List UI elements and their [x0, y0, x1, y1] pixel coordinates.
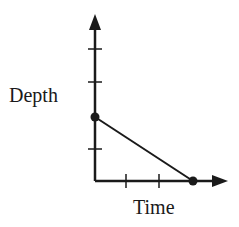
depth-time-chart [0, 0, 239, 227]
data-line [95, 117, 193, 181]
data-point-end [189, 177, 198, 186]
x-axis-label: Time [133, 196, 175, 219]
y-axis-label: Depth [9, 84, 58, 107]
y-axis-arrow-icon [89, 14, 101, 30]
data-point-start [91, 113, 100, 122]
x-axis-arrow-icon [212, 175, 228, 187]
